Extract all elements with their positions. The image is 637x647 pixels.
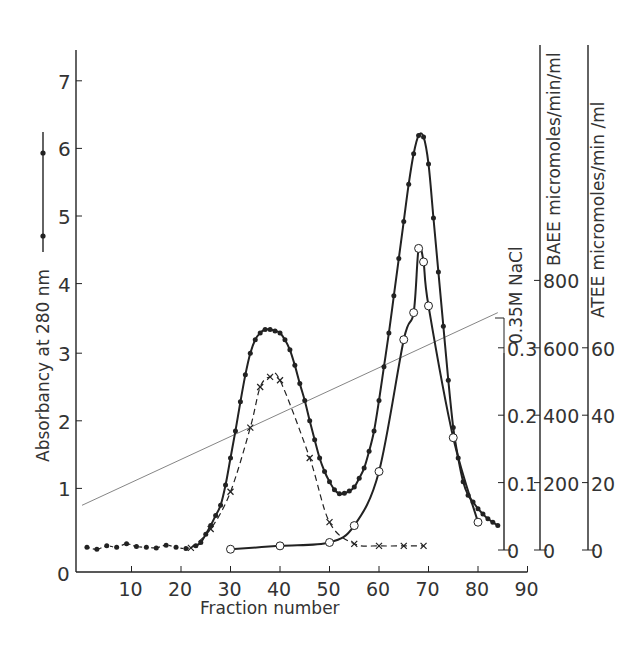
atee-point bbox=[267, 374, 273, 380]
absorbancy-point bbox=[307, 418, 312, 423]
absorbancy-point bbox=[134, 544, 139, 549]
absorbancy-point bbox=[218, 503, 223, 508]
atee-point bbox=[351, 541, 357, 547]
absorbancy-point bbox=[411, 151, 416, 156]
baee-point bbox=[276, 542, 284, 550]
absorbancy-point bbox=[104, 543, 109, 548]
absorbancy-point bbox=[416, 133, 421, 138]
atee-point bbox=[228, 489, 234, 495]
absorbancy-point bbox=[406, 182, 411, 187]
atee-point bbox=[257, 384, 263, 390]
y-tick-label: 4 bbox=[58, 273, 71, 297]
absorbancy-point bbox=[386, 330, 391, 335]
absorbancy-point bbox=[287, 347, 292, 352]
atee-axis-label: 60 bbox=[591, 338, 615, 360]
absorbancy-point bbox=[367, 449, 372, 454]
baee-point bbox=[415, 244, 423, 252]
absorbancy-point bbox=[480, 512, 485, 517]
y-tick-label: 5 bbox=[58, 205, 71, 229]
absorbancy-point bbox=[154, 545, 159, 550]
absorbancy-point bbox=[268, 327, 273, 332]
baee-point bbox=[425, 302, 433, 310]
baee-point bbox=[350, 522, 358, 530]
baee-axis-label: 400 bbox=[543, 405, 579, 427]
atee-axis-label: 40 bbox=[591, 405, 615, 427]
baee-point bbox=[227, 545, 235, 553]
atee-axis-label: 0 bbox=[591, 540, 603, 562]
absorbancy-point bbox=[282, 337, 287, 342]
absorbancy-point bbox=[253, 337, 258, 342]
absorbancy-point bbox=[124, 541, 129, 546]
absorbancy-point bbox=[292, 363, 297, 368]
absorbancy-point bbox=[278, 330, 283, 335]
absorbancy-point bbox=[114, 545, 119, 550]
absorbancy-point bbox=[297, 381, 302, 386]
baee-point bbox=[449, 434, 457, 442]
nacl-axis-title: 0.35M NaCl bbox=[506, 246, 526, 344]
absorbancy-point bbox=[441, 324, 446, 329]
absorbancy-point bbox=[322, 469, 327, 474]
absorbancy-point bbox=[144, 545, 149, 550]
x-tick-label: 60 bbox=[366, 578, 390, 600]
absorbancy-point bbox=[174, 545, 179, 550]
x-tick-label: 70 bbox=[416, 578, 440, 600]
absorbancy-point bbox=[381, 364, 386, 369]
baee-point bbox=[474, 518, 482, 526]
absorbancy-curve bbox=[196, 133, 498, 545]
absorbancy-point bbox=[327, 479, 332, 484]
absorbancy-point bbox=[302, 398, 307, 403]
absorbancy-point bbox=[362, 466, 367, 471]
atee-axis-label: 20 bbox=[591, 473, 615, 495]
absorbancy-point bbox=[357, 476, 362, 481]
x-tick-label: 80 bbox=[465, 578, 489, 600]
absorbancy-point bbox=[352, 485, 357, 490]
x-axis-label: Fraction number bbox=[200, 598, 340, 618]
y-tick-label: 7 bbox=[58, 70, 71, 94]
absorbancy-point bbox=[312, 437, 317, 442]
absorbancy-point bbox=[94, 547, 99, 552]
absorbancy-point bbox=[243, 372, 248, 377]
absorbancy-point bbox=[342, 491, 347, 496]
x-tick-label: 20 bbox=[168, 578, 192, 600]
absorbancy-point bbox=[476, 506, 481, 511]
absorbancy-point bbox=[258, 330, 263, 335]
atee-point bbox=[307, 455, 313, 461]
x-tick-label: 40 bbox=[267, 578, 291, 600]
absorbancy-point bbox=[164, 543, 169, 548]
baee-point bbox=[375, 468, 383, 476]
absorbancy-point bbox=[391, 293, 396, 298]
y-tick-label: 2 bbox=[58, 410, 71, 434]
nacl-axis-label: 0.1 bbox=[507, 473, 537, 495]
absorbancy-point bbox=[332, 487, 337, 492]
absorbancy-point bbox=[213, 513, 218, 518]
baee-axis-title: BAEE micromoles/min/ml bbox=[544, 52, 564, 266]
origin-label: 0 bbox=[57, 562, 70, 586]
absorbancy-point bbox=[337, 491, 342, 496]
absorbancy-point bbox=[263, 327, 268, 332]
absorbancy-point bbox=[347, 489, 352, 494]
atee-point bbox=[277, 377, 283, 383]
y-tick-label: 1 bbox=[58, 477, 71, 501]
absorbancy-point bbox=[238, 399, 243, 404]
absorbancy-point bbox=[490, 520, 495, 525]
legend-dot bbox=[40, 150, 45, 155]
absorbancy-point bbox=[436, 270, 441, 275]
absorbancy-point bbox=[248, 351, 253, 356]
baee-point bbox=[400, 336, 408, 344]
absorbancy-point bbox=[485, 516, 490, 521]
absorbancy-point bbox=[372, 428, 377, 433]
baee-axis-label: 0 bbox=[543, 540, 555, 562]
absorbancy-point bbox=[401, 219, 406, 224]
x-tick-label: 10 bbox=[119, 578, 143, 600]
baee-axis-label: 800 bbox=[543, 270, 579, 292]
nacl-axis-label: 0.2 bbox=[507, 405, 537, 427]
absorbancy-point bbox=[495, 523, 500, 528]
baee-point bbox=[326, 538, 334, 546]
y-tick-label: 6 bbox=[58, 137, 71, 161]
nacl-axis-label: 0 bbox=[507, 540, 519, 562]
atee-point bbox=[327, 519, 333, 525]
y-axis-label: Absorbancy at 280 nm bbox=[33, 269, 53, 462]
absorbancy-point bbox=[273, 328, 278, 333]
baee-point bbox=[420, 258, 428, 266]
legend-dot bbox=[40, 233, 45, 238]
